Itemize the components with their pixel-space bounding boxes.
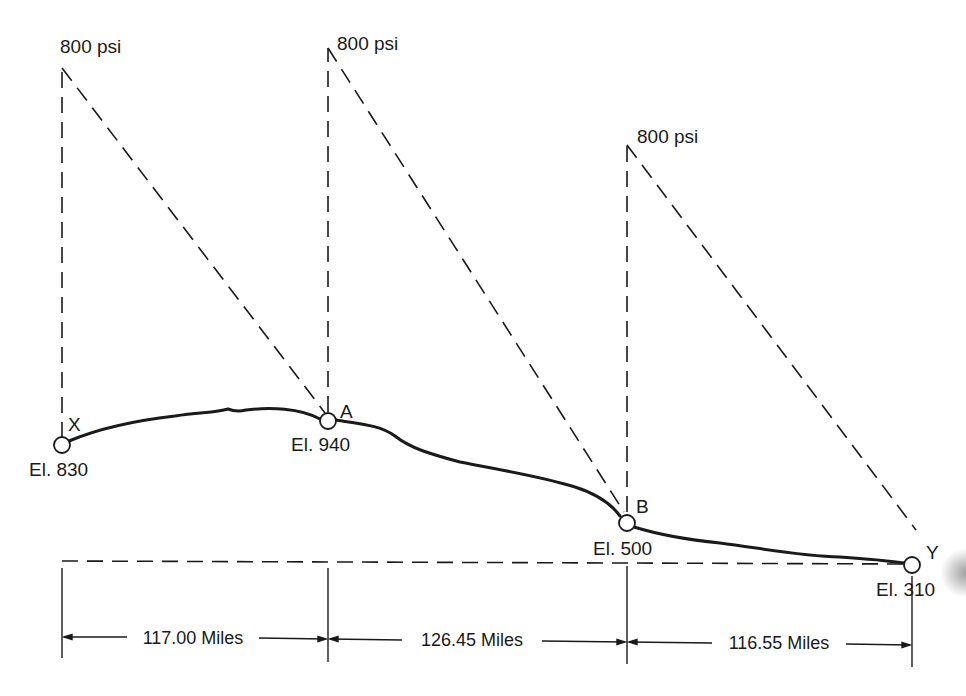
- ground-profile: [69, 409, 904, 563]
- elevation-label-x: El. 830: [29, 459, 88, 480]
- gradient-line-a-to-b: [328, 48, 624, 512]
- arrow-right-icon: [617, 640, 625, 645]
- station-b-marker: [619, 515, 635, 531]
- station-label-b: B: [636, 496, 649, 517]
- distance-label-a-b: 126.45 Miles: [421, 630, 523, 650]
- gradient-line-x-to-a: [62, 68, 325, 413]
- arrow-left-icon: [330, 637, 338, 642]
- pipeline-profile-diagram: 800 psi 800 psi 800 psi X A B Y El. 830 …: [0, 0, 966, 696]
- datum-line: [62, 561, 904, 564]
- arrow-left-icon: [64, 635, 72, 640]
- arrow-left-icon: [629, 640, 637, 645]
- arrow-right-icon: [318, 637, 326, 642]
- pressure-label-b: 800 psi: [637, 126, 698, 147]
- station-x-marker: [54, 437, 70, 453]
- elevation-label-b: El. 500: [593, 538, 652, 559]
- arrow-right-icon: [902, 643, 910, 648]
- hydraulic-gradient-lines: [62, 48, 916, 564]
- station-a-marker: [320, 413, 336, 429]
- gradient-line-b-to-y: [627, 145, 916, 530]
- scan-shadow: [940, 548, 966, 598]
- pressure-label-a: 800 psi: [337, 33, 398, 54]
- elevation-label-a: El. 940: [291, 434, 350, 455]
- station-y-marker: [904, 557, 920, 573]
- station-markers: [54, 413, 920, 573]
- station-label-y: Y: [926, 542, 939, 563]
- distance-label-x-a: 117.00 Miles: [143, 628, 244, 648]
- distance-label-b-y: 116.55 Miles: [729, 633, 830, 653]
- pressure-label-x: 800 psi: [60, 36, 121, 57]
- station-label-a: A: [340, 401, 353, 422]
- station-label-x: X: [68, 414, 81, 435]
- elevation-label-y: El. 310: [876, 579, 935, 600]
